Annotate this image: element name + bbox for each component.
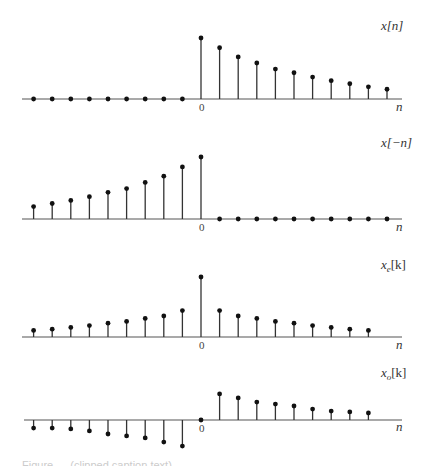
stem-plot-1: 0nx[n] <box>22 18 403 114</box>
stem-dot <box>329 78 334 83</box>
stem-dot <box>236 395 241 400</box>
stem-dot <box>217 392 222 397</box>
stem-dot <box>143 316 148 321</box>
stem-dot <box>217 308 222 313</box>
stem-dot <box>143 436 148 441</box>
stem-dot <box>124 186 129 191</box>
stem-dot <box>236 55 241 60</box>
figure-caption: Figure — (clipped caption text) <box>22 459 262 466</box>
stem-dot <box>199 275 204 280</box>
stem-dot <box>87 97 92 102</box>
stem-dot <box>217 217 222 222</box>
stem-dot <box>366 84 371 89</box>
stem-dot <box>87 429 92 434</box>
stem-dot <box>68 427 73 432</box>
zero-tick-label: 0 <box>199 221 205 233</box>
stem-dot <box>292 217 297 222</box>
stem-dot <box>310 323 315 328</box>
stem-dot <box>366 328 371 333</box>
stem-dot <box>31 328 36 333</box>
stem-plot-3: 0nxe[k] <box>22 257 406 352</box>
stem-dot <box>124 434 129 439</box>
stem-dot <box>31 204 36 209</box>
stem-dot <box>87 323 92 328</box>
stem-dot <box>199 155 204 160</box>
stem-dot <box>273 67 278 72</box>
stem-dot <box>329 409 334 414</box>
stem-dot <box>31 426 36 431</box>
axis-label-n: n <box>396 99 403 114</box>
stem-dot <box>347 327 352 332</box>
stem-dot <box>180 97 185 102</box>
stem-plots-figure: 0nx[n]0nx[−n]0nxe[k]0nxo[k] <box>0 0 425 466</box>
stem-dot <box>254 217 259 222</box>
stem-dot <box>236 217 241 222</box>
stem-dot <box>50 97 55 102</box>
stem-dot <box>31 97 36 102</box>
stem-plot-4: 0nxo[k] <box>24 365 406 448</box>
zero-tick-label: 0 <box>199 101 205 113</box>
stem-dot <box>180 165 185 170</box>
stem-dot <box>124 319 129 324</box>
stem-dot <box>68 325 73 330</box>
stem-dot <box>180 444 185 449</box>
stem-dot <box>292 404 297 409</box>
stem-dot <box>106 321 111 326</box>
stem-dot <box>50 426 55 431</box>
signal-label: x[−n] <box>380 135 412 150</box>
stem-dot <box>124 97 129 102</box>
stem-dot <box>50 201 55 206</box>
stem-dot <box>68 198 73 203</box>
stem-dot <box>310 75 315 80</box>
stem-dot <box>366 217 371 222</box>
stem-dot <box>161 174 166 179</box>
stem-dot <box>143 97 148 102</box>
stem-dot <box>347 409 352 414</box>
zero-tick-label: 0 <box>199 422 205 434</box>
stem-dot <box>347 81 352 86</box>
signal-label: xe[k] <box>380 257 406 274</box>
stem-dot <box>385 87 390 92</box>
stem-dot <box>273 402 278 407</box>
stem-dot <box>106 190 111 195</box>
stem-dot <box>273 217 278 222</box>
axis-label-n: n <box>396 337 403 352</box>
stem-dot <box>199 36 204 41</box>
stem-dot <box>310 217 315 222</box>
stem-dot <box>254 61 259 66</box>
axis-label-n: n <box>396 219 403 234</box>
axis-label-n: n <box>396 419 403 434</box>
stem-dot <box>217 45 222 50</box>
stem-dot <box>292 321 297 326</box>
signal-label: xo[k] <box>380 365 406 382</box>
stem-dot <box>161 97 166 102</box>
stem-dot <box>329 325 334 330</box>
stem-dot <box>106 432 111 437</box>
stem-dot <box>236 314 241 319</box>
zero-tick-label: 0 <box>199 339 205 351</box>
stem-plot-2: 0nx[−n] <box>22 135 412 234</box>
stem-dot <box>161 440 166 445</box>
stem-dot <box>385 217 390 222</box>
stem-dot <box>68 97 73 102</box>
stem-dot <box>329 217 334 222</box>
stem-dot <box>254 316 259 321</box>
stem-dot <box>347 217 352 222</box>
stem-dot <box>310 407 315 412</box>
stem-dot <box>273 319 278 324</box>
stem-dot <box>143 180 148 185</box>
stem-dot <box>254 400 259 405</box>
stem-dot <box>366 411 371 416</box>
stem-dot <box>50 327 55 332</box>
stem-dot <box>180 308 185 313</box>
signal-label: x[n] <box>380 18 403 33</box>
stem-dot <box>87 194 92 199</box>
stem-dot <box>106 97 111 102</box>
stem-dot <box>292 70 297 75</box>
stem-dot <box>161 314 166 319</box>
